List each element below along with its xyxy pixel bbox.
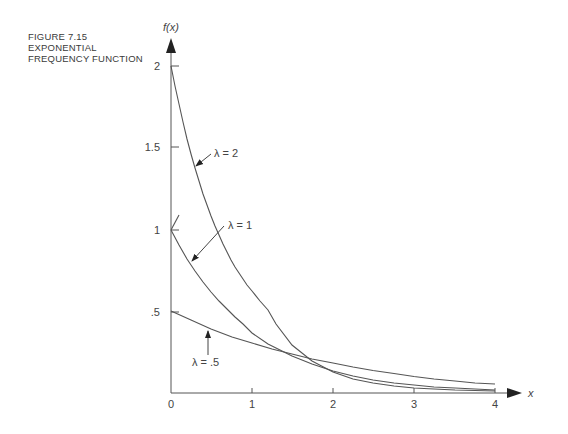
annotation-lambda-0.5: λ = .5	[192, 356, 219, 368]
y-tick-label-1.5: 1.5	[145, 141, 160, 153]
y-tick-label-0.5: .5	[151, 306, 160, 318]
y-ticks	[171, 66, 179, 312]
x-tick-label-2: 2	[330, 398, 336, 410]
y-axis-label: f(x)	[163, 21, 179, 33]
x-tick-label-4: 4	[492, 398, 498, 410]
y-tick-label-1: 1	[154, 224, 160, 236]
axes	[171, 50, 512, 393]
y-axis-arrow-icon	[166, 38, 176, 53]
annotation-lambda-1: λ = 1	[228, 219, 252, 231]
curve-lambda-2	[171, 66, 495, 391]
x-tick-label-1: 1	[249, 398, 255, 410]
curve-lambda-1	[171, 215, 179, 230]
curve-lambda-0.5	[171, 311, 495, 384]
x-tick-label-3: 3	[411, 398, 417, 410]
x-tick-label-0: 0	[168, 398, 174, 410]
x-axis-arrow-icon	[507, 388, 522, 398]
annotation-lambda-2: λ = 2	[214, 147, 238, 159]
curve-lambda-1	[171, 230, 495, 390]
x-axis-label: x	[527, 387, 534, 399]
y-tick-label-2: 2	[154, 60, 160, 72]
chart-plot: 2 1.5 1 .5 0 1 2 3 4 f(x) x λ = 2 λ = 1 …	[0, 0, 568, 434]
arrow-lambda-1	[192, 226, 224, 261]
arrow-lambda-2	[196, 154, 211, 166]
